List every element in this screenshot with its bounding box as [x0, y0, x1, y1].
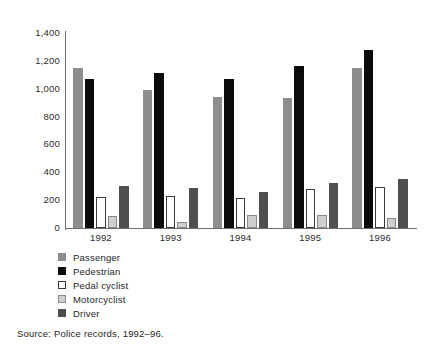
- legend-label: Motorcyclist: [73, 294, 126, 305]
- bar-group-1996: [345, 33, 415, 228]
- legend-item-driver[interactable]: Driver: [58, 306, 258, 320]
- chart-legend: PassengerPedestrianPedal cyclistMotorcyc…: [58, 250, 258, 320]
- bar-driver-1992[interactable]: [119, 186, 129, 228]
- bar-passenger-1992[interactable]: [73, 68, 83, 228]
- x-tick-label-1994: 1994: [206, 232, 276, 244]
- bar-group-1993: [136, 33, 206, 228]
- source-note: Source: Police records, 1992–96.: [17, 328, 164, 339]
- x-tick-label-1995: 1995: [275, 232, 345, 244]
- bar-pedestrian-1993[interactable]: [154, 73, 164, 228]
- bar-pedal-cyclist-1994[interactable]: [236, 198, 246, 228]
- bar-passenger-1996[interactable]: [352, 68, 362, 228]
- x-tick-label-1996: 1996: [345, 232, 415, 244]
- y-tick-label: 600: [2, 139, 60, 149]
- legend-label: Passenger: [73, 252, 120, 263]
- legend-item-passenger[interactable]: Passenger: [58, 250, 258, 264]
- y-tick-label: 200: [2, 195, 60, 205]
- x-tick-label-1992: 1992: [66, 232, 136, 244]
- legend-label: Driver: [73, 308, 100, 319]
- bar-pedestrian-1992[interactable]: [85, 79, 95, 228]
- bar-pedestrian-1996[interactable]: [364, 50, 374, 228]
- bar-pedestrian-1995[interactable]: [294, 66, 304, 228]
- y-tick-label: 1,400: [2, 28, 60, 38]
- bar-pedal-cyclist-1995[interactable]: [306, 189, 316, 228]
- y-tick-label: 800: [2, 112, 60, 122]
- legend-item-motorcyclist[interactable]: Motorcyclist: [58, 292, 258, 306]
- swatch-motorcyclist-icon: [58, 295, 66, 303]
- plot-area: [66, 33, 415, 228]
- bar-motorcyclist-1994[interactable]: [247, 215, 257, 228]
- legend-item-pedestrian[interactable]: Pedestrian: [58, 264, 258, 278]
- y-tick-label: 0: [2, 223, 60, 233]
- bar-driver-1996[interactable]: [398, 179, 408, 228]
- bar-passenger-1994[interactable]: [213, 97, 223, 228]
- swatch-passenger-icon: [58, 253, 66, 261]
- legend-item-pedal-cyclist[interactable]: Pedal cyclist: [58, 278, 258, 292]
- swatch-driver-icon: [58, 309, 66, 317]
- bar-chart-figure: 02004006008001,0001,2001,400 19921993199…: [0, 0, 431, 345]
- bar-pedestrian-1994[interactable]: [224, 79, 234, 228]
- bar-pedal-cyclist-1992[interactable]: [96, 197, 106, 228]
- bar-group-1992: [66, 33, 136, 228]
- bar-motorcyclist-1995[interactable]: [317, 215, 327, 228]
- swatch-pedal-cyclist-icon: [58, 281, 66, 289]
- y-tick-label: 1,000: [2, 84, 60, 94]
- bar-pedal-cyclist-1993[interactable]: [166, 196, 176, 228]
- y-tick-label: 400: [2, 167, 60, 177]
- x-axis-tick-labels: 19921993199419951996: [66, 232, 415, 248]
- bar-group-1995: [275, 33, 345, 228]
- x-tick-label-1993: 1993: [136, 232, 206, 244]
- legend-label: Pedestrian: [73, 266, 120, 277]
- bar-driver-1995[interactable]: [329, 183, 339, 228]
- legend-label: Pedal cyclist: [73, 280, 128, 291]
- bar-motorcyclist-1993[interactable]: [177, 222, 187, 228]
- y-axis-tick-labels: 02004006008001,0001,2001,400: [0, 0, 60, 345]
- bar-group-1994: [206, 33, 276, 228]
- bar-pedal-cyclist-1996[interactable]: [375, 187, 385, 228]
- bar-motorcyclist-1992[interactable]: [108, 216, 118, 228]
- x-axis-line: [65, 228, 417, 229]
- y-tick-label: 1,200: [2, 56, 60, 66]
- swatch-pedestrian-icon: [58, 267, 66, 275]
- bar-passenger-1993[interactable]: [143, 90, 153, 228]
- bar-passenger-1995[interactable]: [283, 98, 293, 228]
- bar-driver-1994[interactable]: [259, 192, 269, 228]
- bar-driver-1993[interactable]: [189, 188, 199, 228]
- bar-motorcyclist-1996[interactable]: [387, 218, 397, 228]
